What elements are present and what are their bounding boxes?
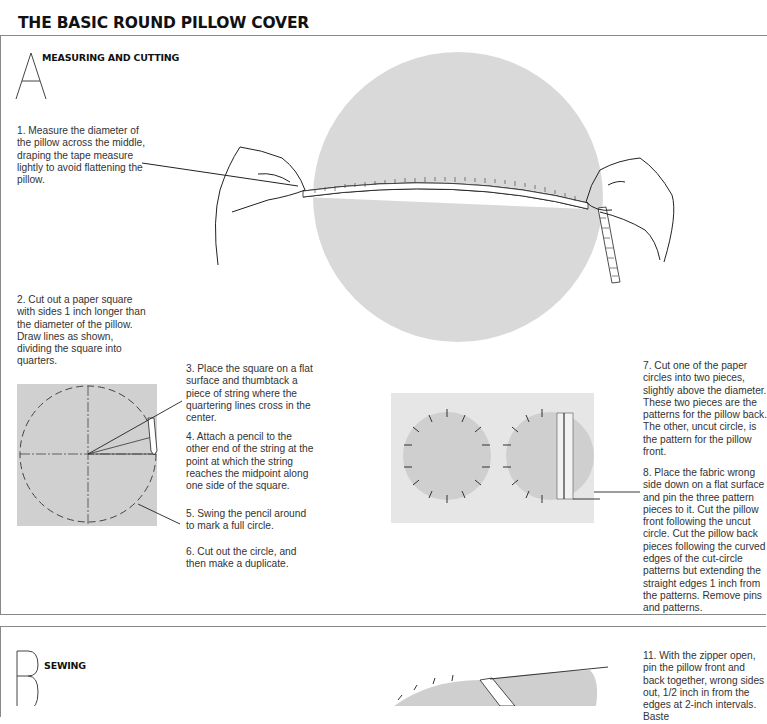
step-2: 2. Cut out a paper square with sides 1 i… <box>17 294 147 368</box>
step-3: 3. Place the square on a flat surface an… <box>186 363 316 424</box>
sewing-pillow-illustration <box>394 667 608 706</box>
letter-b-icon <box>17 651 38 706</box>
step-1: 1. Measure the diameter of the pillow ac… <box>17 125 147 186</box>
letter-a-icon <box>16 53 46 99</box>
pinned-patterns-illustration <box>391 393 640 523</box>
pillow-measure-illustration <box>142 52 674 342</box>
step-8: 8. Place the fabric wrong side down on a… <box>643 467 767 615</box>
paper-square-illustration <box>17 384 182 526</box>
step-4: 4. Attach a pencil to the other end of t… <box>186 431 316 492</box>
step-7: 7. Cut one of the paper circles into two… <box>643 360 767 458</box>
step-5: 5. Swing the pencil around to mark a ful… <box>186 508 316 533</box>
step-6: 6. Cut out the circle, and then make a d… <box>186 546 316 571</box>
step-11: 11. With the zipper open, pin the pillow… <box>643 650 767 724</box>
